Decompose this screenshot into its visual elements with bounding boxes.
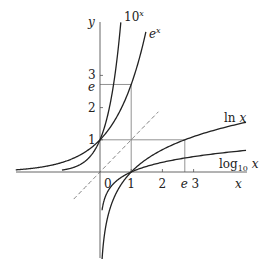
curve-ln — [102, 122, 246, 259]
x-tick-label: 1 — [127, 177, 135, 191]
ticks: 12e312e3 — [88, 68, 199, 191]
y-tick-label: 2 — [88, 101, 96, 115]
y-tick-label: e — [88, 80, 95, 94]
y-tick-label: 3 — [88, 68, 96, 82]
origin-label: 0 — [104, 177, 112, 191]
y-axis-label: y — [87, 15, 95, 29]
legend-label-exp: ex — [149, 26, 161, 41]
curve-identity — [74, 112, 159, 199]
curve-exp — [16, 32, 146, 170]
legend-label-ln: ln x — [224, 111, 246, 125]
legend-label-log10: log10 x — [219, 157, 259, 173]
x-tick-label: 2 — [158, 177, 166, 191]
legend-label-pow10: 10x — [124, 9, 144, 24]
x-tick-label: 3 — [192, 177, 200, 191]
x-axis-label: x — [235, 177, 242, 191]
function-plot: 12e312e3 y x 0 10x ex ln x log10 x — [0, 0, 267, 273]
x-tick-label: e — [181, 177, 188, 191]
